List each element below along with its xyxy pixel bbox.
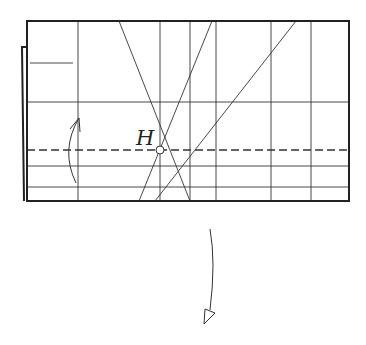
turn-over-arrow-head [204,309,215,324]
paper-outline [27,21,349,201]
origami-diagram: H [0,0,366,345]
paper-border [27,21,349,201]
diagonal-crease [139,21,212,201]
turn-over-arrow-shaft [210,229,213,310]
crease-lines [27,21,349,201]
turn-over-arrow-icon [204,229,215,324]
diagonal-crease [155,21,296,201]
reference-point-label: H [135,126,155,150]
diagonal-creases [119,21,296,201]
reference-point-circle [156,146,164,154]
diagonal-crease [119,21,190,201]
